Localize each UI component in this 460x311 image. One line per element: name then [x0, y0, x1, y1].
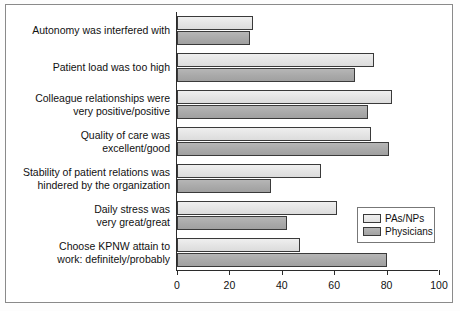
bar-pas-nps	[177, 127, 371, 141]
x-axis-tick	[229, 270, 230, 275]
chart-legend: PAs/NPs Physicians	[357, 207, 435, 243]
legend-label-physicians: Physicians	[385, 226, 433, 237]
category-label: Colleague relationships were very positi…	[2, 92, 170, 117]
category-label: Choose KPNW attain to work: definitely/p…	[2, 240, 170, 265]
bar-physicians	[177, 68, 355, 82]
x-axis-tick	[439, 270, 440, 275]
legend-swatch-physicians	[363, 227, 381, 236]
legend-label-pas-nps: PAs/NPs	[385, 213, 424, 224]
bar-pas-nps	[177, 164, 321, 178]
x-axis-tick	[282, 270, 283, 275]
bar-physicians	[177, 179, 271, 193]
category-label: Daily stress was very great/great	[2, 203, 170, 228]
bar-pas-nps	[177, 238, 300, 252]
x-axis-tick-label: 40	[276, 279, 288, 291]
category-label: Stability of patient relations was hinde…	[2, 166, 170, 191]
chart-figure: Autonomy was interfered withPatient load…	[0, 0, 460, 311]
x-axis-tick-label: 20	[224, 279, 236, 291]
legend-swatch-pas-nps	[363, 214, 381, 223]
category-label: Patient load was too high	[2, 61, 170, 74]
x-axis-tick-label: 100	[430, 279, 448, 291]
legend-item-pas-nps: PAs/NPs	[363, 212, 429, 225]
category-label: Quality of care was excellent/good	[2, 129, 170, 154]
x-axis-tick-label: 80	[381, 279, 393, 291]
x-axis-tick	[177, 270, 178, 275]
bar-physicians	[177, 142, 389, 156]
category-label: Autonomy was interfered with	[2, 24, 170, 37]
bar-physicians	[177, 31, 250, 45]
x-axis-tick	[334, 270, 335, 275]
bar-physicians	[177, 253, 387, 267]
bar-pas-nps	[177, 53, 374, 67]
bar-pas-nps	[177, 90, 392, 104]
x-axis-tick	[387, 270, 388, 275]
x-axis-tick-label: 60	[328, 279, 340, 291]
bar-pas-nps	[177, 201, 337, 215]
bar-physicians	[177, 105, 368, 119]
bar-physicians	[177, 216, 287, 230]
legend-item-physicians: Physicians	[363, 225, 429, 238]
bar-pas-nps	[177, 16, 253, 30]
x-axis-tick-label: 0	[174, 279, 180, 291]
